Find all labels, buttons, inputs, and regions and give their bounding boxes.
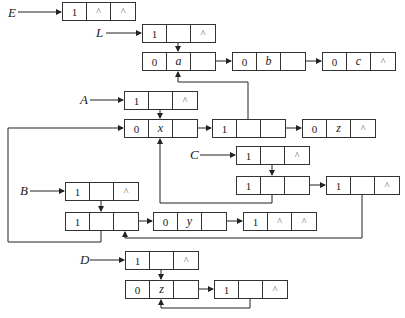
tail-cell: ^ — [111, 3, 135, 20]
list-node: 1 — [236, 176, 310, 195]
list-node: 1^ — [65, 182, 139, 201]
list-node: 0y — [153, 212, 227, 231]
tag-cell: 0 — [303, 120, 327, 137]
tail-cell — [173, 120, 197, 137]
tail-cell: ^ — [114, 183, 138, 200]
list-node: 1^ — [236, 146, 310, 165]
head-pointer-label-b: B — [20, 184, 28, 198]
head-cell — [149, 92, 173, 109]
list-node: 1^^ — [243, 212, 317, 231]
tail-cell: ^ — [174, 252, 198, 269]
head-cell — [261, 147, 285, 164]
head-cell: c — [347, 53, 371, 70]
head-cell — [90, 183, 114, 200]
pointer-arrows — [0, 0, 405, 318]
list-node: 1 — [212, 119, 286, 138]
tail-cell — [174, 281, 198, 298]
head-cell: y — [178, 213, 202, 230]
list-node: 1^ — [124, 91, 198, 110]
tail-cell: ^ — [375, 177, 399, 194]
head-cell — [239, 281, 263, 298]
tag-cell: 1 — [237, 177, 261, 194]
tail-cell: ^ — [285, 147, 309, 164]
head-pointer-label-a: A — [80, 93, 88, 107]
list-node: 0z^ — [302, 119, 376, 138]
tag-cell: 1 — [125, 92, 149, 109]
generalized-list-diagram: ELACBD 1^^1^0a0b0c^1^0x10z^1^11^1^10y1^^… — [0, 0, 405, 318]
tag-cell: 1 — [66, 213, 90, 230]
head-cell — [150, 252, 174, 269]
head-cell: ^ — [268, 213, 292, 230]
tail-cell — [114, 213, 138, 230]
list-node: 1^ — [326, 176, 400, 195]
head-pointer-label-c: C — [190, 148, 199, 162]
tag-cell: 1 — [126, 252, 150, 269]
head-cell: z — [327, 120, 351, 137]
tail-cell — [202, 213, 226, 230]
tag-cell: 0 — [143, 53, 167, 70]
head-cell: b — [257, 53, 281, 70]
tail-cell: ^ — [191, 25, 215, 42]
tag-cell: 0 — [125, 120, 149, 137]
tag-cell: 0 — [323, 53, 347, 70]
list-node: 0c^ — [322, 52, 396, 71]
tail-cell: ^ — [292, 213, 316, 230]
head-cell: z — [150, 281, 174, 298]
list-node: 1^ — [214, 280, 288, 299]
tag-cell: 1 — [215, 281, 239, 298]
tag-cell: 1 — [66, 183, 90, 200]
head-pointer-label-d: D — [80, 253, 89, 267]
head-cell: x — [149, 120, 173, 137]
tail-cell — [261, 120, 285, 137]
tag-cell: 1 — [213, 120, 237, 137]
tail-cell: ^ — [371, 53, 395, 70]
head-cell — [261, 177, 285, 194]
tag-cell: 0 — [126, 281, 150, 298]
tag-cell: 1 — [63, 3, 87, 20]
tag-cell: 1 — [244, 213, 268, 230]
list-node: 0x — [124, 119, 198, 138]
tag-cell: 1 — [237, 147, 261, 164]
head-cell — [351, 177, 375, 194]
head-cell: a — [167, 53, 191, 70]
list-node: 0z — [125, 280, 199, 299]
head-cell — [237, 120, 261, 137]
head-cell — [90, 213, 114, 230]
tag-cell: 1 — [327, 177, 351, 194]
tag-cell: 1 — [143, 25, 167, 42]
tail-cell: ^ — [263, 281, 287, 298]
tail-cell: ^ — [351, 120, 375, 137]
head-pointer-label-e: E — [8, 6, 16, 20]
list-node: 0b — [232, 52, 306, 71]
tail-cell — [281, 53, 305, 70]
tag-cell: 0 — [154, 213, 178, 230]
list-node: 0a — [142, 52, 216, 71]
head-cell: ^ — [87, 3, 111, 20]
head-cell — [167, 25, 191, 42]
tail-cell — [191, 53, 215, 70]
list-node: 1^ — [125, 251, 199, 270]
list-node: 1^ — [142, 24, 216, 43]
tag-cell: 0 — [233, 53, 257, 70]
head-pointer-label-l: L — [96, 26, 103, 40]
list-node: 1^^ — [62, 2, 136, 21]
tail-cell — [285, 177, 309, 194]
list-node: 1 — [65, 212, 139, 231]
tail-cell: ^ — [173, 92, 197, 109]
